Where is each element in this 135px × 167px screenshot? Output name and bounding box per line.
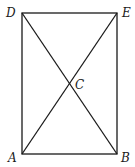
label-point-D: D [5,6,16,20]
label-point-A: A [7,151,17,165]
geometry-diagram: D E C A B [0,0,135,167]
label-point-B: B [120,151,130,165]
label-point-E: E [121,6,131,20]
label-point-C: C [75,78,84,92]
